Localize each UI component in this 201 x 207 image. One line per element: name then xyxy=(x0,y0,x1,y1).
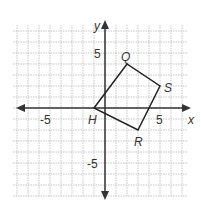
axes xyxy=(16,20,191,200)
y-axis-down-arrow-icon xyxy=(101,191,109,200)
y-axis-up-arrow-icon xyxy=(101,20,109,29)
y-axis-label: y xyxy=(93,19,101,33)
y-tick-neg5: -5 xyxy=(87,157,98,171)
x-axis-right-arrow-icon xyxy=(182,104,191,112)
x-axis-label: x xyxy=(187,113,195,127)
y-tick-pos5: 5 xyxy=(94,47,101,61)
coordinate-plane-figure: x y -5 5 5 -5 H Q S R xyxy=(0,0,201,207)
vertex-label-Q: Q xyxy=(121,50,130,64)
coordinate-plane-svg: x y -5 5 5 -5 H Q S R xyxy=(0,0,201,207)
vertex-label-R: R xyxy=(134,135,143,149)
vertex-label-S: S xyxy=(164,81,172,95)
vertex-label-H: H xyxy=(88,113,97,127)
x-tick-pos5: 5 xyxy=(156,113,163,127)
x-tick-neg5: -5 xyxy=(40,113,51,127)
